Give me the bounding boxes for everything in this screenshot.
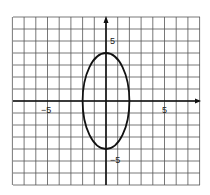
y-tick-label-5: 5 [110,36,115,46]
coordinate-plane: −5 5 5 −5 [0,0,210,195]
x-tick-label-neg5: −5 [41,105,51,115]
x-axis-arrow-icon [195,99,201,104]
y-tick-label-neg5: −5 [110,155,120,165]
x-tick-label-5: 5 [162,105,167,115]
